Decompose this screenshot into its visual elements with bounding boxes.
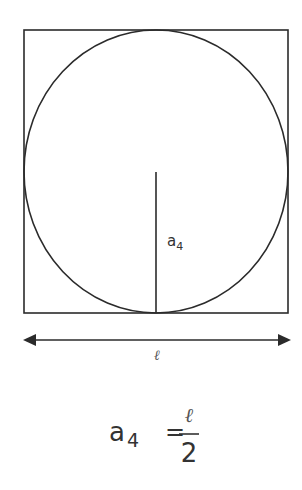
formula-lhs: a4: [109, 417, 139, 451]
arrow-head-right-icon: [278, 334, 291, 346]
length-label: ℓ: [154, 347, 160, 363]
formula-numerator: ℓ: [185, 403, 194, 427]
formula: a4 = ℓ 2: [109, 403, 199, 468]
radius-label-subscript: 4: [176, 240, 183, 253]
radius-label-base: a: [167, 232, 176, 250]
formula-lhs-base: a: [109, 417, 125, 447]
formula-denominator: 2: [181, 438, 198, 468]
arrow-head-left-icon: [23, 334, 36, 346]
radius-label: a4: [167, 232, 183, 253]
formula-lhs-subscript: 4: [127, 429, 139, 451]
inscribed-circle-diagram: a4 ℓ a4 = ℓ 2: [0, 0, 302, 490]
